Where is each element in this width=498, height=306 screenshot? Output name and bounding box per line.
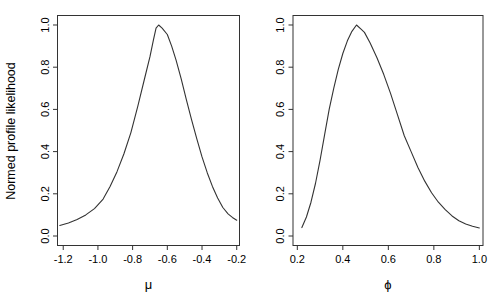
y-tick-label: 0.8	[39, 60, 51, 75]
x-tick-label: 0.6	[381, 253, 396, 265]
y-tick-label: 0.0	[39, 228, 51, 243]
y-tick-label: 0.4	[39, 144, 51, 159]
x-tick-label: 1.0	[472, 253, 487, 265]
x-tick-label: -0.6	[158, 253, 177, 265]
y-tick-label: 0.2	[39, 186, 51, 201]
x-axis-label-mu: μ	[145, 277, 153, 292]
x-tick-label: -0.8	[123, 253, 142, 265]
phi-panel: 0.20.40.60.81.00.00.20.40.60.81.0 ϕ	[249, 0, 498, 306]
x-tick-label: -0.4	[193, 253, 212, 265]
y-tick-label: 0.2	[274, 186, 286, 201]
likelihood-curve	[302, 25, 479, 228]
x-tick-label: 0.8	[426, 253, 441, 265]
plot-box	[58, 16, 240, 246]
y-tick-label: 0.4	[274, 144, 286, 159]
x-axis-label-phi: ϕ	[384, 277, 391, 292]
figure: -1.2-1.0-0.8-0.6-0.4-0.20.00.20.40.60.81…	[0, 0, 498, 306]
x-tick-label: -1.2	[54, 253, 73, 265]
y-tick-label: 1.0	[274, 17, 286, 32]
y-tick-label: 0.6	[39, 102, 51, 117]
plot-box	[293, 16, 483, 246]
y-tick-label: 0.8	[274, 60, 286, 75]
mu-panel: -1.2-1.0-0.8-0.6-0.4-0.20.00.20.40.60.81…	[0, 0, 249, 306]
phi-plot: 0.20.40.60.81.00.00.20.40.60.81.0	[249, 0, 498, 306]
x-tick-label: 0.4	[335, 253, 350, 265]
y-axis-label: Normed profile likelihood	[4, 62, 18, 200]
y-tick-label: 0.6	[274, 102, 286, 117]
likelihood-curve	[60, 25, 237, 225]
y-tick-label: 1.0	[39, 17, 51, 32]
x-tick-label: -1.0	[88, 253, 107, 265]
mu-plot: -1.2-1.0-0.8-0.6-0.4-0.20.00.20.40.60.81…	[0, 0, 249, 306]
x-tick-label: 0.2	[290, 253, 305, 265]
x-tick-label: -0.2	[227, 253, 246, 265]
y-tick-label: 0.0	[274, 228, 286, 243]
